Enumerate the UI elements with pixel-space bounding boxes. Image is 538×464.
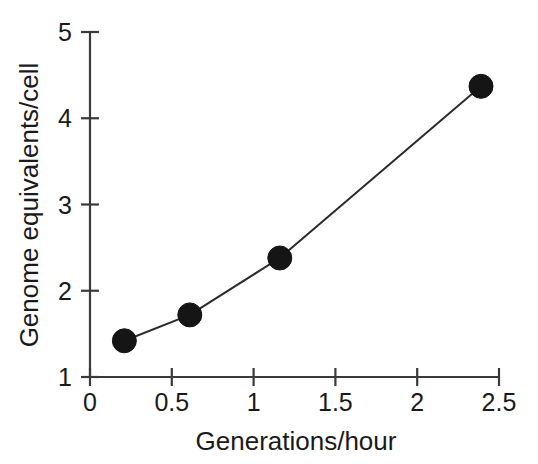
y-tick-label-1: 1 [58, 363, 72, 391]
y-tick-label-3: 3 [58, 191, 72, 219]
x-tick-label-1: 1 [247, 388, 261, 416]
data-point [178, 303, 202, 327]
y-tick-label-5: 5 [58, 18, 72, 46]
x-tick-label-2: 2 [410, 388, 424, 416]
data-point [268, 246, 292, 270]
x-tick-label-0-5: 0.5 [154, 388, 189, 416]
x-axis-title: Generations/hour [196, 426, 397, 456]
x-tick-label-1-5: 1.5 [318, 388, 353, 416]
y-tick-label-4: 4 [58, 104, 72, 132]
data-point [112, 329, 136, 353]
y-axis-title: Genome equivalents/cell [14, 63, 44, 348]
x-tick-label-0: 0 [83, 388, 97, 416]
chart-figure: 1 2 3 4 5 0 0.5 1 1.5 2 2.5 Generations/… [0, 0, 538, 464]
y-tick-label-2: 2 [58, 277, 72, 305]
x-tick-label-2-5: 2.5 [482, 388, 517, 416]
data-point [469, 74, 493, 98]
chart-background [0, 0, 538, 464]
line-chart: 1 2 3 4 5 0 0.5 1 1.5 2 2.5 Generations/… [0, 0, 538, 464]
